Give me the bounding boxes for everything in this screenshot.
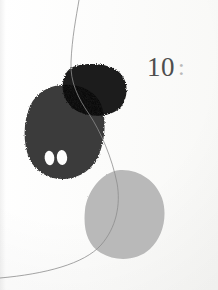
light-gray-blob: [85, 170, 165, 259]
figure-number-separator: :: [175, 54, 185, 80]
figure-number-label: 10:: [147, 54, 185, 81]
scanned-page: 10:: [0, 0, 218, 290]
figure-number-value: 10: [147, 52, 175, 82]
artwork-illustration: [0, 0, 218, 290]
